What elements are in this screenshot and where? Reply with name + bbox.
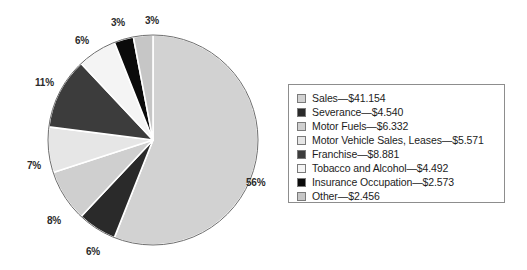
pie-percent-label: 7% bbox=[27, 160, 41, 171]
pie-chart-area: 56%6%8%7%11%6%3%3% bbox=[0, 0, 290, 270]
legend-item: Sales—$41.154 bbox=[297, 92, 484, 106]
pie-percent-label: 8% bbox=[47, 215, 61, 226]
legend-item-label: Motor Vehicle Sales, Leases—$5.571 bbox=[312, 134, 484, 147]
legend-color-swatch bbox=[297, 192, 306, 201]
pie-slice-group bbox=[48, 35, 258, 245]
legend-item-label: Other—$2.456 bbox=[312, 190, 380, 203]
pie-percent-label: 3% bbox=[145, 15, 159, 26]
pie-chart-svg bbox=[0, 0, 290, 270]
legend-item-label: Tobacco and Alcohol—$4.492 bbox=[312, 162, 448, 175]
legend-item: Franchise—$8.881 bbox=[297, 148, 484, 162]
legend-color-swatch bbox=[297, 164, 306, 173]
legend-color-swatch bbox=[297, 136, 306, 145]
pie-percent-label: 11% bbox=[35, 77, 54, 88]
legend-item: Motor Vehicle Sales, Leases—$5.571 bbox=[297, 134, 484, 148]
legend-list: Sales—$41.154Severance—$4.540Motor Fuels… bbox=[297, 92, 484, 204]
legend-item: Tobacco and Alcohol—$4.492 bbox=[297, 162, 484, 176]
legend-color-swatch bbox=[297, 178, 306, 187]
legend-item: Motor Fuels—$6.332 bbox=[297, 120, 484, 134]
legend-item-label: Franchise—$8.881 bbox=[312, 148, 399, 161]
pie-percent-label: 56% bbox=[246, 177, 265, 188]
legend-item: Insurance Occupation—$2.573 bbox=[297, 176, 484, 190]
legend-item-label: Insurance Occupation—$2.573 bbox=[312, 176, 454, 189]
pie-percent-label: 6% bbox=[75, 35, 89, 46]
legend-color-swatch bbox=[297, 108, 306, 117]
legend-panel: Sales—$41.154Severance—$4.540Motor Fuels… bbox=[288, 84, 505, 203]
legend-color-swatch bbox=[297, 94, 306, 103]
legend-item: Other—$2.456 bbox=[297, 190, 484, 204]
pie-percent-label: 3% bbox=[111, 17, 125, 28]
legend-item-label: Sales—$41.154 bbox=[312, 92, 385, 105]
legend-item-label: Motor Fuels—$6.332 bbox=[312, 120, 408, 133]
pie-chart-figure: 56%6%8%7%11%6%3%3% Sales—$41.154Severanc… bbox=[0, 0, 527, 270]
pie-percent-label: 6% bbox=[86, 246, 100, 257]
legend-color-swatch bbox=[297, 122, 306, 131]
legend-item: Severance—$4.540 bbox=[297, 106, 484, 120]
legend-color-swatch bbox=[297, 150, 306, 159]
legend-item-label: Severance—$4.540 bbox=[312, 106, 403, 119]
